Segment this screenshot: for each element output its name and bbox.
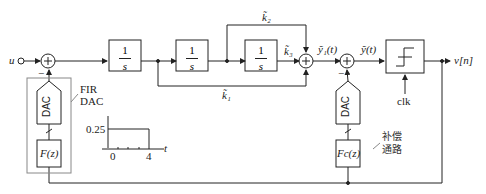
dac-label-outer: DAC bbox=[80, 96, 103, 107]
int1-den: s bbox=[115, 61, 135, 72]
integrator-3-label: 1s bbox=[251, 45, 271, 72]
fir-label: FIR bbox=[80, 84, 97, 95]
integrator-2-label: 1s bbox=[182, 45, 202, 72]
clock-label: clk bbox=[397, 96, 410, 107]
signal-y1: ỹ₁(t) bbox=[318, 44, 337, 55]
comp-dac-text: DAC bbox=[340, 96, 351, 117]
gain-k2: k̃₂ bbox=[262, 12, 271, 23]
integrator-1-label: 1s bbox=[115, 45, 135, 72]
pulse-xlabel: t bbox=[164, 143, 167, 154]
input-label: u bbox=[9, 55, 15, 66]
minus-sign-1: − bbox=[38, 68, 44, 79]
pulse-xtick-4: 4 bbox=[146, 151, 152, 162]
filter-f-label: F(z) bbox=[40, 148, 58, 159]
int2-num: 1 bbox=[182, 45, 202, 56]
minus-sign-2: − bbox=[338, 68, 344, 79]
block-diagram bbox=[0, 0, 486, 194]
int3-den: s bbox=[251, 61, 271, 72]
input-terminal bbox=[18, 58, 24, 64]
int3-num: 1 bbox=[251, 45, 271, 56]
gain-k1: k̃₁ bbox=[222, 90, 231, 101]
int2-den: s bbox=[182, 61, 202, 72]
gain-k3: k̃₃ bbox=[284, 46, 293, 57]
pulse-ytick: 0.25 bbox=[86, 124, 105, 135]
filter-fc-label: Fc(z) bbox=[337, 148, 360, 159]
output-label: v[n] bbox=[454, 55, 473, 66]
fir-dac-text: DAC bbox=[41, 96, 52, 117]
int1-num: 1 bbox=[115, 45, 135, 56]
signal-y: ỹ(t) bbox=[361, 44, 376, 55]
comp-label-1: 补偿 bbox=[382, 132, 402, 142]
pulse-xtick-0: 0 bbox=[110, 151, 116, 162]
comp-label-2: 通路 bbox=[382, 145, 402, 155]
